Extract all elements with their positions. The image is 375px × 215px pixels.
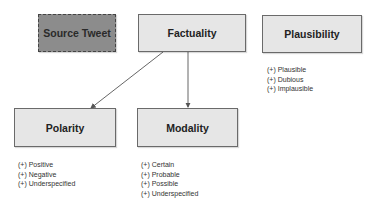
plausibility-values: (+) Plausible (+) Dubious (+) Implausibl… bbox=[267, 65, 313, 94]
plausibility-node: Plausibility bbox=[262, 15, 362, 53]
plausibility-label: Plausibility bbox=[284, 28, 339, 40]
polarity-node: Polarity bbox=[14, 108, 116, 147]
factuality-node: Factuality bbox=[138, 14, 246, 52]
modality-value: (+) Certain bbox=[141, 160, 198, 170]
factuality-label: Factuality bbox=[167, 27, 216, 39]
modality-value: (+) Possible bbox=[141, 179, 198, 189]
polarity-value: (+) Underspecified bbox=[18, 179, 75, 189]
polarity-values: (+) Positive (+) Negative (+) Underspeci… bbox=[18, 160, 75, 189]
modality-node: Modality bbox=[137, 108, 238, 147]
source-tweet-label: Source Tweet bbox=[43, 27, 111, 39]
edge-factuality-polarity bbox=[91, 52, 163, 108]
plausibility-value: (+) Implausible bbox=[267, 84, 313, 94]
polarity-label: Polarity bbox=[46, 122, 85, 134]
modality-value: (+) Probable bbox=[141, 170, 198, 180]
modality-label: Modality bbox=[166, 122, 209, 134]
modality-value: (+) Underspecified bbox=[141, 189, 198, 199]
polarity-value: (+) Negative bbox=[18, 170, 75, 180]
source-tweet-node: Source Tweet bbox=[38, 14, 116, 52]
plausibility-value: (+) Plausible bbox=[267, 65, 313, 75]
polarity-value: (+) Positive bbox=[18, 160, 75, 170]
modality-values: (+) Certain (+) Probable (+) Possible (+… bbox=[141, 160, 198, 198]
plausibility-value: (+) Dubious bbox=[267, 75, 313, 85]
